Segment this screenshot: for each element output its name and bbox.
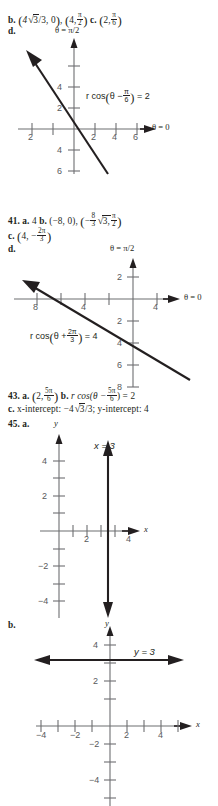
part-label-c: c. [8,404,15,414]
x-axis-label: x [196,719,200,729]
y-tick--2: −2 [89,739,99,749]
fraction-numerator: π [123,88,130,96]
equation-45b: y = 3 [134,646,155,657]
part-label-b: b. [39,216,47,226]
equation-41d: r cos(θ +2π3) = 4 [30,328,98,344]
graph-41d: θ = π/2 8 4 4 2 2 4 6 [0,242,218,387]
answer-number-41: 41. [8,216,20,226]
y-tick-4: 4 [42,456,47,466]
graph-45a: y x = 3 x 2 4 [0,418,218,618]
value-43c-prefix: x-intercept: [17,404,61,414]
paren-close: ) [78,333,82,344]
answer-line-41ab: 41. a. 4 b. (−8, 0), (−83√3,π2) [8,213,122,229]
radical-arg: 3 [33,14,39,25]
y-axis-label: y [54,418,58,428]
part-label-b: b. [61,391,69,401]
theta-horizontal-label: θ = 0 [184,292,202,302]
theta-vertical-label: θ = π/2 [55,25,79,35]
part-label-a: a. [22,391,29,401]
graph-45b-canvas [0,618,218,806]
line-arrow-upper [26,50,42,67]
fraction-numerator: 2π [67,328,78,336]
x-tick-2: 2 [84,534,89,544]
y-tick-2: 2 [117,272,122,282]
line-arrow-left [34,655,50,665]
y-tick--4: −4 [38,596,48,606]
y-tick--2: 2 [117,316,122,326]
equation-prefix: r cos [30,331,50,341]
value-43b-prefix: r cos(θ − [71,391,107,401]
line-arrow-down [103,602,113,618]
equation-theta: θ − [110,91,123,101]
radical-sign: √3 [74,404,85,414]
fraction-denominator: 2 [111,221,117,228]
equation-suffix: = 2 [137,91,150,101]
vertical-axis-arrow [130,258,137,268]
y-axis-label: y [105,618,109,628]
paren-close: ) [117,217,121,229]
x-tick--4: −4 [36,730,46,740]
equation-45a: x = 3 [94,440,115,451]
value-43a-x: 2, [36,391,43,401]
fraction-5pi-6: 5π6 [44,388,54,404]
fraction-8-3: 83 [90,213,96,229]
x-axis-label: x [144,524,148,534]
y-tick--2: −2 [38,561,48,571]
y-tick--4: 4 [117,338,122,348]
x-tick-4: 4 [112,132,117,142]
x-tick--4: 4 [81,302,86,312]
y-tick--6: 6 [117,360,122,370]
y-axis-arrow [56,434,63,444]
paren-close: ) [130,93,134,104]
radical-arg: 3 [79,403,85,414]
theta-horizontal-label: θ = 0 [152,122,170,132]
x-tick--2: −2 [70,730,80,740]
value-41b-1: (−8, 0), [49,216,78,226]
y-tick-4: 4 [93,640,98,650]
value-41a: 4 [32,216,37,226]
y-tick-2: 2 [42,491,47,501]
graph-39d: θ = π/2 2 2 4 6 [0,24,218,174]
equation-39d: r cos(θ −π6) = 2 [86,88,150,104]
answer-number-43: 43. [8,391,20,401]
value-43b-suffix: ) = 2 [117,391,135,401]
radical-sign: √3, [97,216,111,226]
answer-key-page: b. (4√3/3, 0), (4,π2) c. (2,π6) d. θ = π… [0,0,218,806]
fraction-pi-6: π6 [123,88,130,103]
fraction-denominator: 3 [67,336,78,343]
y-tick--6: 6 [57,166,62,176]
line-arrow-right [168,655,184,665]
x-tick-6: 6 [133,132,138,142]
x-tick-4: 4 [158,730,163,740]
fraction-denominator: 3 [90,221,96,228]
value-43c-den: /3; [85,404,95,414]
x-tick--2: 2 [28,132,33,142]
y-tick-4: 4 [57,82,62,92]
x-tick-4: 4 [153,302,158,312]
equation-theta: θ + [54,331,67,341]
answer-line-43ab: 43. a. (2,5π6) b. r cos(θ −5π6) = 2 [8,388,135,404]
part-label-c: c. [8,231,15,241]
y-tick--4: −4 [89,775,99,785]
x-tick-4: 4 [126,534,131,544]
paren-close: ) [54,392,58,404]
value-43c-suffix: y-intercept: 4 [98,404,149,414]
answer-line-43c: c. x-intercept: −4√3/3; y-intercept: 4 [8,403,149,415]
x-tick-2: 2 [91,132,96,142]
y-tick-2: 2 [93,676,98,686]
fraction-2pi-3: 2π3 [67,328,78,343]
fraction-pi-2: π2 [111,213,117,229]
y-tick--4: 4 [57,145,62,155]
vertical-axis-arrow [71,38,78,48]
y-tick-2: 2 [57,103,62,113]
value-43c-coef: −4 [64,404,74,414]
line-arrow-left [22,280,40,293]
equation-suffix: = 4 [85,331,98,341]
paren-open: ( [80,217,84,229]
equation-prefix: r cos [86,91,106,101]
x-tick-2: 2 [124,730,129,740]
value-41c-x: 4, − [21,231,36,241]
radical-arg: 3, [102,215,110,226]
x-tick--8: 8 [33,302,38,312]
theta-vertical-label: θ = π/2 [110,243,134,253]
